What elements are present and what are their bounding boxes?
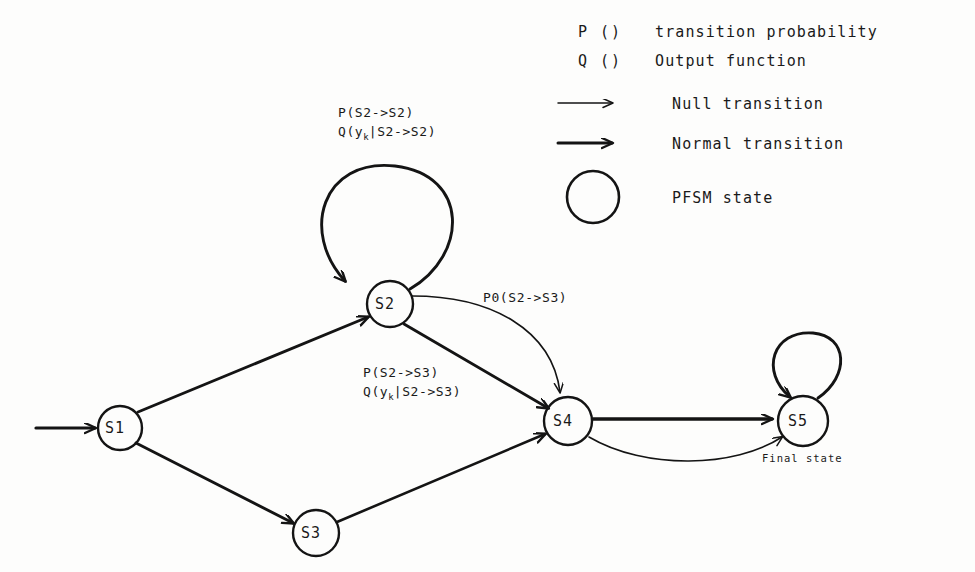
edge-label-s2-s4-probability: P(S2->S3) <box>363 364 439 381</box>
edge-label-s2-s4-null: P0(S2->S3) <box>483 289 567 306</box>
legend-label-output-function: Output function <box>655 52 807 70</box>
final-state-label: Final state <box>762 452 843 464</box>
legend-label-pfsm-state: PFSM state <box>672 189 773 207</box>
legend-symbol-q: Q () <box>578 52 622 70</box>
edge-s1-to-s3 <box>136 443 293 523</box>
state-label-s4: S4 <box>553 412 573 430</box>
state-label-s5: S5 <box>788 412 808 430</box>
edge-label-s2-self-output-pre: Q(y <box>338 124 363 139</box>
edge-s5-self-loop <box>773 333 840 398</box>
edge-label-s2-s4-output: Q(yk|S2->S3) <box>363 383 461 406</box>
diagram-canvas <box>0 0 975 572</box>
edge-s2-self-loop <box>322 165 453 289</box>
state-label-s1: S1 <box>105 419 125 437</box>
legend-symbol-p: P () <box>578 23 622 41</box>
edge-label-s2-s4-output-pre: Q(y <box>363 384 388 399</box>
edge-label-s2-self-probability: P(S2->S2) <box>338 104 414 121</box>
edge-label-s2-self-output-post: |S2->S2) <box>369 124 436 139</box>
state-label-s3: S3 <box>301 524 321 542</box>
edge-s4-to-s5-null <box>589 437 782 461</box>
state-label-s2: S2 <box>375 295 395 313</box>
edge-label-s2-s4-output-post: |S2->S3) <box>394 384 461 399</box>
legend-state-circle-icon <box>567 171 619 223</box>
legend-label-normal-transition: Normal transition <box>672 135 844 153</box>
edge-s3-to-s4 <box>337 434 545 522</box>
legend-label-null-transition: Null transition <box>672 95 824 113</box>
legend-label-transition-probability: transition probability <box>655 23 878 41</box>
edge-label-s2-self-output: Q(yk|S2->S2) <box>338 123 436 146</box>
pfsm-diagram-page: P () transition probability Q () Output … <box>0 0 975 572</box>
edge-s1-to-s2 <box>138 317 368 412</box>
